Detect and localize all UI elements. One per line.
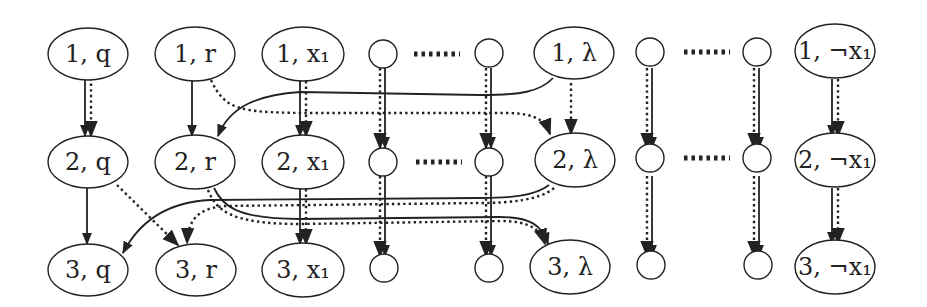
node-label: 1, q (65, 40, 111, 68)
node-2-not-x1: 2, ¬x₁ (795, 133, 875, 187)
node-label: 3, ¬x₁ (798, 253, 872, 281)
edge-2lambda-3r-dotted (187, 188, 554, 243)
node-3-circle-a (370, 254, 398, 282)
node-3-r: 3, r (156, 244, 236, 296)
edge-2q-3r-dotted (117, 185, 178, 245)
node-1-x1: 1, x₁ (262, 27, 344, 81)
node-1-r: 1, r (155, 27, 235, 81)
node-2-circle-c (636, 144, 664, 172)
node-1-circle-c (636, 38, 664, 66)
node-1-lambda: 1, λ (534, 27, 614, 79)
node-2-q: 2, q (48, 136, 128, 188)
node-3-circle-c (637, 251, 665, 279)
node-label: 1, r (174, 40, 217, 68)
node-2-x1: 2, x₁ (262, 135, 344, 189)
node-1-circle-d (743, 38, 771, 66)
node-3-circle-d (744, 251, 772, 279)
node-2-r: 2, r (155, 135, 235, 189)
node-3-q: 3, q (48, 244, 128, 296)
node-2-circle-a (369, 148, 397, 176)
node-1-not-x1: 1, ¬x₁ (795, 24, 875, 78)
node-label: 3, q (65, 256, 111, 284)
node-1-circle-a (369, 40, 397, 68)
node-label: 2, r (174, 148, 217, 176)
node-3-lambda: 3, λ (530, 240, 610, 294)
node-label: 2, λ (552, 146, 598, 174)
node-label: 1, λ (551, 39, 597, 67)
node-label: 3, r (175, 256, 218, 284)
node-label: 1, ¬x₁ (798, 37, 872, 65)
node-label: 2, x₁ (276, 148, 330, 176)
node-2-lambda: 2, λ (535, 133, 615, 187)
node-3-not-x1: 3, ¬x₁ (795, 240, 875, 294)
node-2-circle-d (743, 144, 771, 172)
node-3-x1: 3, x₁ (262, 243, 344, 297)
node-2-circle-b (475, 148, 503, 176)
layered-graph-diagram: 1, q 2, q 3, q 1, r 2, r 3, r 1, x₁ (0, 0, 927, 307)
node-label: 3, λ (547, 253, 593, 281)
node-label: 2, q (65, 148, 111, 176)
node-label: 2, ¬x₁ (798, 146, 872, 174)
node-1-circle-b (475, 39, 503, 67)
node-1-q: 1, q (48, 28, 128, 80)
node-label: 3, x₁ (276, 256, 330, 284)
node-label: 1, x₁ (276, 40, 330, 68)
node-3-circle-b (475, 254, 503, 282)
